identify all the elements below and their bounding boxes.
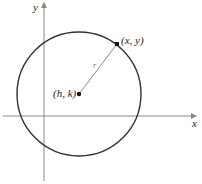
point-label: (x, y): [121, 34, 144, 47]
radius-label: r: [93, 61, 97, 70]
center-point: [77, 92, 81, 96]
center-label: (h, k): [53, 87, 77, 100]
diagram-svg: y x (x, y) (h, k) r: [0, 0, 202, 184]
x-axis-label: x: [191, 117, 197, 129]
circle-point: [115, 42, 119, 46]
y-axis-label: y: [32, 1, 38, 13]
circle-diagram: y x (x, y) (h, k) r: [0, 0, 202, 184]
radius-line: [79, 44, 117, 94]
